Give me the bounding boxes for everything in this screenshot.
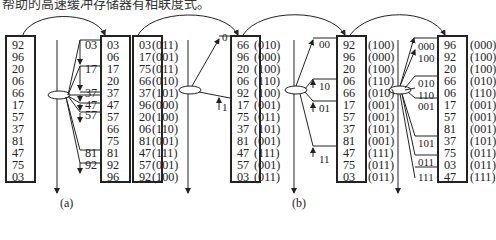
bucket-label: 100 [418, 52, 435, 64]
bucket-label: 01 [319, 102, 330, 114]
value: 03 [343, 171, 355, 184]
bucket-label: 111 [418, 171, 434, 183]
bucket-label: 10 [319, 80, 330, 92]
binary-code: (111) [470, 171, 496, 184]
value: 92 [139, 171, 151, 184]
bucket-label: 17 [85, 63, 97, 76]
value: 96 [107, 171, 119, 184]
bucket-label: 03 [85, 39, 97, 52]
value: 47 [444, 171, 456, 184]
bucket-label: 011 [418, 156, 434, 168]
bucket-label: 010 [418, 77, 435, 89]
value: 03 [237, 171, 249, 184]
caption-b: (b) [292, 196, 306, 211]
bucket-label: 92 [85, 159, 97, 172]
bucket-label: 001 [418, 100, 435, 112]
bucket-label: 101 [418, 137, 435, 149]
bucket-label: 0 [222, 31, 228, 43]
binary-code: (100) [152, 171, 178, 184]
value: 03 [12, 171, 24, 184]
bucket-label: 57 [85, 109, 97, 122]
bucket-label: 1 [222, 101, 228, 113]
bucket-label: 000 [418, 40, 435, 52]
binary-code: (011) [368, 171, 394, 184]
bucket-label: 00 [319, 38, 330, 50]
binary-code: (011) [254, 171, 280, 184]
bucket-label: 11 [319, 153, 330, 165]
caption-a: (a) [60, 196, 73, 211]
